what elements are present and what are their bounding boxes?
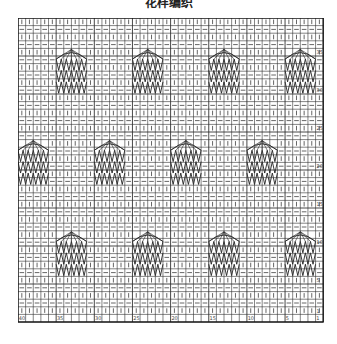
chart-grid: [18, 18, 323, 322]
svg-text:1: 1: [317, 308, 320, 314]
svg-text:1: 1: [316, 315, 319, 321]
svg-text:35: 35: [317, 49, 323, 55]
svg-text:40: 40: [19, 315, 25, 321]
svg-text:5: 5: [317, 277, 320, 283]
svg-text:30: 30: [95, 315, 101, 321]
svg-text:5: 5: [286, 315, 289, 321]
svg-text:25: 25: [133, 315, 139, 321]
svg-text:30: 30: [317, 87, 323, 93]
knitting-chart: 151015202530354035302520151051: [18, 18, 328, 333]
svg-text:15: 15: [210, 315, 216, 321]
svg-text:15: 15: [317, 201, 323, 207]
svg-text:35: 35: [57, 315, 63, 321]
svg-text:10: 10: [248, 315, 254, 321]
svg-text:20: 20: [171, 315, 177, 321]
svg-text:10: 10: [317, 239, 323, 245]
svg-text:25: 25: [317, 125, 323, 131]
svg-text:20: 20: [317, 163, 323, 169]
chart-title: 花样编织: [0, 0, 337, 10]
